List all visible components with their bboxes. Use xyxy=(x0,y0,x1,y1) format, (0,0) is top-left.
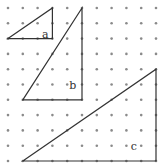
grid-dot xyxy=(96,68,99,71)
grid-dot xyxy=(125,37,128,40)
grid-dot xyxy=(7,129,10,132)
grid-dot xyxy=(22,129,25,132)
grid-dot xyxy=(125,53,128,56)
grid-dot xyxy=(36,53,39,56)
grid-dot xyxy=(140,22,143,25)
grid-dot xyxy=(22,83,25,86)
grid-dot xyxy=(125,83,128,86)
grid-dot xyxy=(36,22,39,25)
grid-dot xyxy=(51,144,54,147)
grid-dot xyxy=(140,144,143,147)
grid-dot xyxy=(66,68,69,71)
grid-dot xyxy=(110,68,113,71)
grid-dot xyxy=(7,7,10,10)
triangle-a: a xyxy=(8,8,52,41)
grid-dot xyxy=(66,37,69,40)
grid-dot xyxy=(155,7,158,10)
grid-dot xyxy=(81,144,84,147)
grid-dot xyxy=(81,129,84,132)
grid-dot xyxy=(7,160,10,163)
triangles: abc xyxy=(8,8,156,161)
grid-dot xyxy=(96,37,99,40)
grid-svg: abc xyxy=(0,0,167,168)
grid-dot xyxy=(125,68,128,71)
grid-dot xyxy=(125,114,128,117)
grid-dot xyxy=(66,83,69,86)
grid-dot xyxy=(7,53,10,56)
grid-dot xyxy=(155,37,158,40)
grid-dot xyxy=(110,22,113,25)
grid-dot xyxy=(155,53,158,56)
grid-dot xyxy=(36,83,39,86)
grid-dot xyxy=(96,114,99,117)
grid-dot xyxy=(110,129,113,132)
grid-dot xyxy=(51,114,54,117)
dot-grid-diagram: abc xyxy=(0,0,167,168)
grid-dot xyxy=(96,53,99,56)
grid-dot xyxy=(66,7,69,10)
grid-dot xyxy=(22,114,25,117)
grid-dot xyxy=(7,99,10,102)
grid-dot xyxy=(140,83,143,86)
grid-dot xyxy=(66,22,69,25)
grid-dot xyxy=(7,22,10,25)
triangle-label: c xyxy=(131,140,137,153)
grid-dot xyxy=(125,99,128,102)
grid-dot xyxy=(110,114,113,117)
grid-dot xyxy=(140,68,143,71)
grid-dot xyxy=(96,144,99,147)
grid-dot xyxy=(110,83,113,86)
grid-dot xyxy=(22,7,25,10)
grid-dot xyxy=(96,83,99,86)
grid-dot xyxy=(125,7,128,10)
grid-dot xyxy=(110,7,113,10)
grid-dot xyxy=(81,114,84,117)
grid-dot xyxy=(96,7,99,10)
grid-dot xyxy=(7,114,10,117)
grid-dot xyxy=(7,83,10,86)
grid-dot xyxy=(140,37,143,40)
grid-dot xyxy=(125,22,128,25)
triangle-label: b xyxy=(69,79,76,92)
grid-dot xyxy=(51,83,54,86)
grid-dot xyxy=(66,53,69,56)
grid-dot xyxy=(96,22,99,25)
grid-dot xyxy=(51,129,54,132)
grid-dot xyxy=(110,37,113,40)
grid-dot xyxy=(66,144,69,147)
grid-dot xyxy=(22,53,25,56)
grid-dot xyxy=(96,129,99,132)
grid-dot xyxy=(22,144,25,147)
grid-dot xyxy=(140,53,143,56)
grid-dot xyxy=(36,7,39,10)
grid-dot xyxy=(140,99,143,102)
grid-dot xyxy=(66,114,69,117)
triangle-label: a xyxy=(42,28,49,41)
grid-dot xyxy=(110,144,113,147)
grid-dot xyxy=(140,7,143,10)
grid-dot xyxy=(51,68,54,71)
grid-dot xyxy=(140,114,143,117)
grid-dot xyxy=(125,144,128,147)
grid-dot xyxy=(96,99,99,102)
grid-dot xyxy=(140,129,143,132)
grid-dot xyxy=(36,114,39,117)
grid-dot xyxy=(7,144,10,147)
triangle-c: c xyxy=(23,69,156,161)
grid-dot xyxy=(36,129,39,132)
grid-dot xyxy=(110,53,113,56)
grid-dot xyxy=(155,22,158,25)
grid-dot xyxy=(7,68,10,71)
grid-dot xyxy=(36,68,39,71)
grid-dot xyxy=(22,68,25,71)
grid-dot xyxy=(22,22,25,25)
grid-dot xyxy=(36,144,39,147)
grid-dot xyxy=(125,129,128,132)
